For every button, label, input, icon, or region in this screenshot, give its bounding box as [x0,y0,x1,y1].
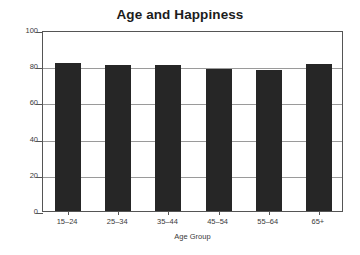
x-axis-title: Age Group [42,232,343,241]
chart-title: Age and Happiness [0,7,360,22]
y-tick-label-60: 60 [30,99,38,107]
y-tick-label-100: 100 [25,27,38,35]
x-tick-label: 45–54 [193,218,243,226]
y-tick-100 [36,32,43,33]
x-tick [168,211,169,215]
chart-container: Age and Happiness 020406080100 15–2425–3… [0,0,360,255]
x-tick-label: 15–24 [42,218,92,226]
x-tick [68,211,69,215]
gridline-60 [43,104,342,105]
bar [306,64,332,211]
x-tick [269,211,270,215]
y-tick-80 [36,68,43,69]
y-tick-label-20: 20 [30,172,38,180]
bar [155,65,181,211]
gridline-40 [43,141,342,142]
bar [55,63,81,211]
plot-area [42,31,343,212]
gridline-20 [43,177,342,178]
gridline-80 [43,68,342,69]
y-tick-0 [36,213,43,214]
y-tick-60 [36,104,43,105]
y-tick-label-0: 0 [34,208,38,216]
y-tick-20 [36,177,43,178]
bar [256,70,282,211]
bar [105,65,131,211]
x-tick-label: 25–34 [92,218,142,226]
x-tick-label: 65+ [293,218,343,226]
bar [206,69,232,211]
x-tick [319,211,320,215]
x-tick-label: 35–44 [142,218,192,226]
x-tick [118,211,119,215]
x-tick-label: 55–64 [243,218,293,226]
y-tick-label-80: 80 [30,63,38,71]
y-tick-label-40: 40 [30,136,38,144]
x-tick [219,211,220,215]
y-tick-40 [36,141,43,142]
